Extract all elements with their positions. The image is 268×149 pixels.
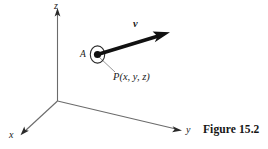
point-leader-line (100, 58, 116, 73)
x-axis-arrowhead (21, 126, 29, 135)
x-axis-label: x (9, 130, 13, 140)
figure-15-2: z y x A P(x, y, z) v Figure 15.2 (0, 0, 268, 149)
figure-caption: Figure 15.2 (203, 124, 259, 136)
y-axis-line (58, 101, 177, 129)
vector-label-v: v (133, 19, 138, 30)
point-dot (94, 51, 101, 58)
point-label-p: P(x, y, z) (113, 72, 150, 83)
y-axis-label: y (186, 125, 190, 135)
z-axis-label: z (54, 1, 58, 11)
x-axis-line (25, 101, 58, 131)
y-axis-arrowhead (172, 126, 182, 132)
vector-v-shaft (98, 36, 161, 55)
node-label-a: A (80, 50, 86, 60)
